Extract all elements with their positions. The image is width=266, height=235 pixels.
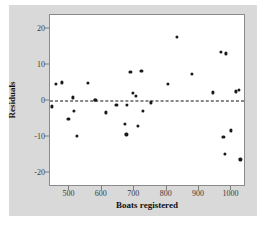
data-point bbox=[237, 88, 240, 91]
data-point bbox=[141, 109, 144, 112]
y-tick-label: 20 bbox=[37, 24, 45, 33]
zero-reference-line bbox=[50, 101, 244, 102]
y-axis-tick-labels: 20100-10-20 bbox=[26, 14, 45, 186]
data-point bbox=[125, 133, 128, 136]
x-tick-label: 900 bbox=[192, 189, 204, 198]
data-point bbox=[115, 103, 118, 106]
x-tick-label: 1000 bbox=[222, 189, 238, 198]
data-point bbox=[75, 134, 78, 137]
data-point bbox=[239, 158, 242, 161]
data-point bbox=[61, 81, 64, 84]
x-tick-label: 700 bbox=[127, 189, 139, 198]
data-point bbox=[72, 109, 75, 112]
x-tick-label: 500 bbox=[62, 189, 74, 198]
data-point bbox=[71, 96, 74, 99]
data-point bbox=[140, 69, 143, 72]
data-point bbox=[104, 111, 107, 114]
data-point bbox=[219, 50, 222, 53]
data-point bbox=[137, 124, 140, 127]
data-point bbox=[224, 52, 227, 55]
y-tick-label: 10 bbox=[37, 60, 45, 69]
x-tick-label: 600 bbox=[95, 189, 107, 198]
y-axis-label: Residuals bbox=[7, 81, 17, 118]
data-point bbox=[190, 73, 193, 76]
data-point bbox=[135, 94, 138, 97]
data-point bbox=[166, 82, 169, 85]
data-point bbox=[55, 82, 58, 85]
plot-area bbox=[50, 15, 244, 185]
data-point bbox=[67, 117, 70, 120]
data-point bbox=[86, 81, 89, 84]
x-tick-label: 800 bbox=[160, 189, 172, 198]
data-point bbox=[51, 105, 54, 108]
x-axis-label: Boats registered bbox=[116, 200, 178, 210]
data-point bbox=[129, 70, 132, 73]
data-point bbox=[124, 123, 127, 126]
residual-plot-figure: Residuals Boats registered 20100-10-20 5… bbox=[0, 0, 266, 235]
x-axis-ticks: 5006007008009001000 bbox=[49, 186, 245, 200]
data-point bbox=[229, 129, 232, 132]
y-tick-label: -10 bbox=[34, 131, 45, 140]
data-point bbox=[126, 103, 129, 106]
data-point bbox=[175, 36, 178, 39]
data-point bbox=[223, 152, 226, 155]
plot-frame bbox=[49, 14, 245, 186]
data-point bbox=[211, 91, 214, 94]
data-point bbox=[149, 101, 152, 104]
y-tick-label: -20 bbox=[34, 167, 45, 176]
data-point bbox=[222, 136, 225, 139]
